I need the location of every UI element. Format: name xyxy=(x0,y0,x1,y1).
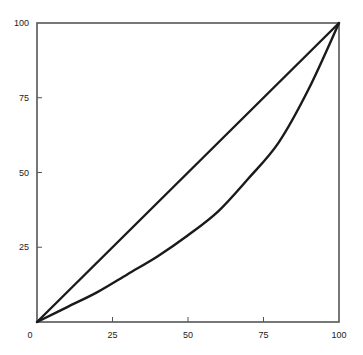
x-tick-label: 100 xyxy=(331,330,346,340)
equality-line xyxy=(37,23,339,322)
x-tick-label: 25 xyxy=(107,330,117,340)
y-tick-label: 50 xyxy=(19,168,29,178)
x-tick-label: 0 xyxy=(27,330,32,340)
x-tick-label: 50 xyxy=(183,330,193,340)
lorenz-chart: 0255075100255075100 xyxy=(0,0,363,355)
y-tick-label: 100 xyxy=(14,18,29,28)
x-tick-label: 75 xyxy=(258,330,268,340)
y-tick-label: 75 xyxy=(19,93,29,103)
y-tick-label: 25 xyxy=(19,242,29,252)
chart-series xyxy=(37,23,339,322)
